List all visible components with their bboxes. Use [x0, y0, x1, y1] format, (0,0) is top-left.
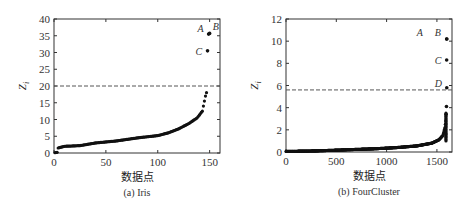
- panel-caption: (b) FourCluster: [338, 186, 401, 198]
- outlier-label: B: [435, 27, 441, 38]
- y-tick-label: 35: [39, 30, 51, 42]
- y-tick-label: 30: [39, 47, 51, 59]
- outlier-point: [208, 32, 212, 36]
- data-point: [202, 105, 205, 108]
- y-tick-label: 4: [277, 102, 283, 114]
- data-point: [204, 94, 207, 97]
- outlier-point: [445, 105, 449, 109]
- outlier-points: ABCD: [416, 27, 449, 108]
- data-point: [205, 91, 208, 94]
- y-tick-label: 8: [277, 57, 283, 69]
- figure: 0510152025303540 050100150 ABC Zi 数据点 (a…: [0, 0, 468, 208]
- x-tick-label: 0: [51, 156, 57, 168]
- y-tick-label: 10: [39, 114, 51, 126]
- x-tick-label: 100: [150, 156, 167, 168]
- panel-fourcluster: 024681012 050010001500 ABCD Zi 数据点 (b) F…: [248, 13, 452, 198]
- plot-frame: [286, 19, 452, 152]
- outlier-label: D: [434, 78, 443, 89]
- outlier-label: A: [416, 27, 424, 38]
- outlier-label: B: [213, 21, 219, 32]
- y-tick-label: 5: [45, 130, 51, 142]
- data-point: [201, 110, 204, 113]
- y-tick-label: 0: [45, 147, 51, 159]
- y-tick-label: 15: [39, 97, 51, 109]
- outlier-label: C: [435, 55, 442, 66]
- y-tick-label: 12: [271, 13, 282, 25]
- x-tick-label: 0: [283, 155, 289, 167]
- x-axis-label: 数据点: [121, 170, 154, 183]
- y-tick-label: 20: [39, 80, 51, 92]
- outlier-point: [445, 58, 449, 62]
- x-tick-label: 50: [100, 156, 112, 168]
- outlier-label: C: [196, 46, 203, 57]
- data-points: [284, 112, 447, 153]
- panel-iris: 0510152025303540 050100150 ABC Zi 数据点 (a…: [16, 13, 220, 199]
- y-axis: 024681012: [271, 13, 452, 158]
- x-tick-label: 150: [201, 156, 218, 168]
- y-tick-label: 6: [277, 80, 283, 92]
- data-point: [56, 151, 59, 154]
- data-points: [53, 91, 208, 154]
- y-tick-label: 40: [39, 13, 51, 25]
- data-point: [203, 99, 206, 102]
- outlier-label: A: [197, 23, 205, 34]
- x-axis-label: 数据点: [353, 169, 386, 182]
- y-tick-label: 2: [277, 124, 283, 136]
- outlier-points: ABC: [196, 21, 219, 57]
- x-tick-label: 1500: [426, 155, 449, 167]
- y-axis-label: Zi: [248, 81, 263, 89]
- outlier-point: [445, 37, 449, 41]
- y-axis-label: Zi: [16, 82, 31, 90]
- x-tick-label: 1000: [376, 155, 399, 167]
- panel-caption: (a) Iris: [124, 187, 151, 199]
- y-tick-label: 10: [271, 35, 283, 47]
- data-point: [444, 112, 447, 115]
- y-tick-label: 25: [39, 63, 51, 75]
- y-tick-label: 0: [277, 146, 283, 158]
- x-tick-label: 500: [328, 155, 345, 167]
- outlier-point: [445, 86, 449, 90]
- outlier-point: [206, 49, 210, 53]
